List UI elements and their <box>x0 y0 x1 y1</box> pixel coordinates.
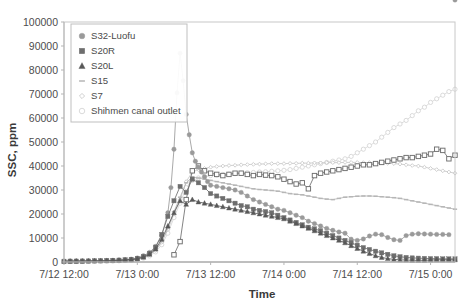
x-axis-ticks: 7/12 12:007/13 0:007/13 12:007/14 0:007/… <box>39 262 452 280</box>
y-tick-label: 50000 <box>29 136 58 148</box>
ssc-time-series-chart: 0100002000030000400005000060000700008000… <box>0 0 470 304</box>
legend-label: Shihmen canal outlet <box>91 105 181 116</box>
legend-label: S20R <box>91 45 115 56</box>
legend-label: S15 <box>91 75 108 86</box>
x-tick-label: 7/13 12:00 <box>186 268 236 280</box>
legend-item-shihmen-canal-outlet[interactable]: Shihmen canal outlet <box>79 105 181 116</box>
legend-label: S7 <box>91 90 103 101</box>
y-tick-label: 80000 <box>29 64 58 76</box>
y-tick-label: 60000 <box>29 112 58 124</box>
y-axis-title: SSC, ppm <box>6 123 18 177</box>
y-tick-label: 10000 <box>29 232 58 244</box>
y-tick-label: 90000 <box>29 40 58 52</box>
y-axis-ticks: 0100002000030000400005000060000700008000… <box>23 16 64 268</box>
x-tick-label: 7/15 0:00 <box>409 268 453 280</box>
y-tick-label: 40000 <box>29 160 58 172</box>
chart-container: 0100002000030000400005000060000700008000… <box>0 0 470 304</box>
x-axis-title: Time <box>249 288 276 300</box>
legend-label: S20L <box>91 60 114 71</box>
y-tick-label: 100000 <box>23 16 58 28</box>
legend-label: S32-Luofu <box>91 30 135 41</box>
y-tick-label: 0 <box>52 256 58 268</box>
y-tick-label: 20000 <box>29 208 58 220</box>
x-tick-label: 7/14 12:00 <box>332 268 382 280</box>
chart-legend: S32-LuofuS20RS20LS15S7Shihmen canal outl… <box>71 24 187 122</box>
x-tick-label: 7/13 0:00 <box>115 268 159 280</box>
y-tick-label: 30000 <box>29 184 58 196</box>
x-tick-label: 7/12 12:00 <box>39 268 89 280</box>
y-tick-label: 70000 <box>29 88 58 100</box>
x-tick-label: 7/14 0:00 <box>262 268 306 280</box>
